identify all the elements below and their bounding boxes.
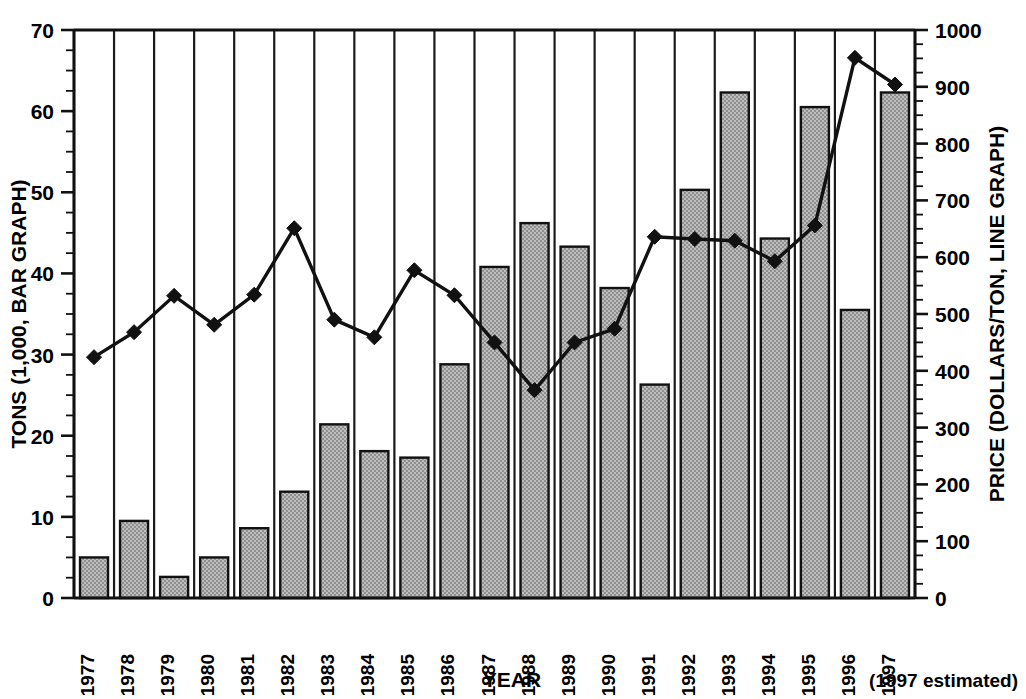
x-tick-label-1993: 1993	[718, 654, 739, 696]
y-tick-label: 60	[31, 100, 54, 123]
bar-1997	[881, 92, 909, 598]
y2-tick-label: 200	[935, 473, 970, 496]
chart-container: 010203040506070 010020030040050060070080…	[0, 0, 1026, 699]
x-tick-label-1980: 1980	[197, 654, 218, 696]
bar-1987	[480, 267, 508, 598]
y2-tick-label: 100	[935, 530, 970, 553]
x-tick-label-1978: 1978	[117, 654, 138, 696]
x-axis-title: YEAR	[483, 668, 541, 691]
y2-tick-label: 1000	[935, 19, 982, 42]
x-tick-label-1985: 1985	[397, 654, 418, 697]
y2-axis-title: PRICE (DOLLARS/TON, LINE GRAPH)	[985, 126, 1008, 502]
y-tick-label: 20	[31, 425, 54, 448]
bar-1985	[400, 458, 428, 598]
bar-1989	[561, 247, 589, 598]
x-tick-label-1986: 1986	[437, 654, 458, 696]
bar-1978	[120, 521, 148, 598]
y2-tick-label: 600	[935, 246, 970, 269]
x-tick-label-1990: 1990	[598, 654, 619, 696]
x-tick-label-1989: 1989	[558, 654, 579, 696]
bar-1996	[841, 310, 869, 598]
bar-1988	[521, 223, 549, 598]
x-tick-label-1982: 1982	[277, 654, 298, 696]
bar-1993	[721, 92, 749, 598]
x-tick-label-1983: 1983	[317, 654, 338, 696]
y2-tick-label: 500	[935, 303, 970, 326]
bar-1982	[280, 492, 308, 598]
y2-tick-label: 700	[935, 189, 970, 212]
bar-1977	[80, 557, 108, 598]
bar-1980	[200, 557, 228, 598]
y-tick-label: 10	[31, 506, 54, 529]
bar-1981	[240, 528, 268, 598]
y-tick-label: 0	[42, 587, 54, 610]
x-tick-label-1979: 1979	[157, 654, 178, 696]
bar-line-combo-chart: 010203040506070 010020030040050060070080…	[0, 0, 1026, 699]
bar-1992	[681, 190, 709, 598]
bar-1994	[761, 239, 789, 598]
y2-tick-label: 800	[935, 133, 970, 156]
x-tick-label-1991: 1991	[638, 654, 659, 697]
y-tick-label: 40	[31, 262, 54, 285]
y2-tick-label: 400	[935, 360, 970, 383]
bar-1984	[360, 451, 388, 598]
y-tick-label: 70	[31, 19, 54, 42]
y2-tick-label: 900	[935, 76, 970, 99]
x-tick-label-1981: 1981	[237, 654, 258, 697]
y-tick-label: 50	[31, 181, 54, 204]
bar-1991	[641, 385, 669, 598]
x-tick-label-1995: 1995	[798, 654, 819, 697]
x-tick-label-1984: 1984	[357, 654, 378, 697]
x-tick-label-1992: 1992	[678, 654, 699, 696]
y2-tick-label: 0	[935, 587, 947, 610]
x-tick-label-1977: 1977	[77, 654, 98, 696]
x-tick-label-1996: 1996	[838, 654, 859, 696]
y2-tick-label: 300	[935, 417, 970, 440]
x-tick-label-1994: 1994	[758, 654, 779, 697]
y-axis-title: TONS (1,000, BAR GRAPH)	[7, 179, 30, 448]
y-tick-label: 30	[31, 344, 54, 367]
bar-1986	[440, 364, 468, 598]
footnote-estimated: (1997 estimated)	[869, 670, 1018, 691]
bar-1979	[160, 577, 188, 598]
bar-1983	[320, 424, 348, 598]
